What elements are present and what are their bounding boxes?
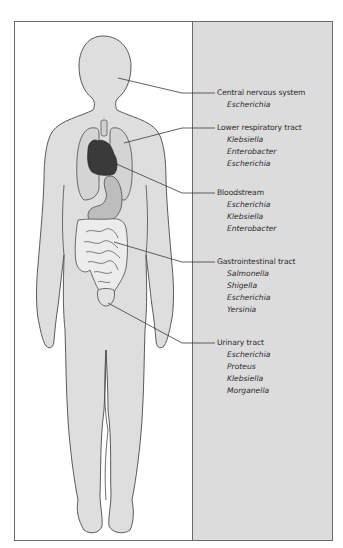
organism: Proteus (217, 361, 270, 373)
leader-cns (118, 78, 215, 93)
organism: Enterobacter (217, 146, 302, 158)
trachea (101, 120, 107, 136)
site-gastrointestinal: Gastrointestinal tract Salmonella Shigel… (217, 256, 295, 316)
organism: Morganella (217, 385, 270, 397)
site-name: Lower respiratory tract (217, 122, 302, 134)
site-name: Urinary tract (217, 337, 270, 349)
organism: Escherichia (217, 292, 295, 304)
organism: Escherichia (217, 349, 270, 361)
organism: Escherichia (217, 158, 302, 170)
organism: Klebsiella (217, 211, 276, 223)
bladder (97, 289, 114, 307)
organism: Escherichia (217, 199, 276, 211)
organism: Shigella (217, 280, 295, 292)
organism: Klebsiella (217, 134, 302, 146)
organism: Escherichia (217, 99, 305, 111)
site-bloodstream: Bloodstream Escherichia Klebsiella Enter… (217, 187, 276, 235)
site-name: Gastrointestinal tract (217, 256, 295, 268)
site-urinary: Urinary tract Escherichia Proteus Klebsi… (217, 337, 270, 397)
site-lower-respiratory: Lower respiratory tract Klebsiella Enter… (217, 122, 302, 170)
site-name: Central nervous system (217, 87, 305, 99)
organism: Salmonella (217, 268, 295, 280)
site-cns: Central nervous system Escherichia (217, 87, 305, 111)
organism: Yersinia (217, 304, 295, 316)
organism: Enterobacter (217, 223, 276, 235)
site-name: Bloodstream (217, 187, 276, 199)
organism: Klebsiella (217, 373, 270, 385)
